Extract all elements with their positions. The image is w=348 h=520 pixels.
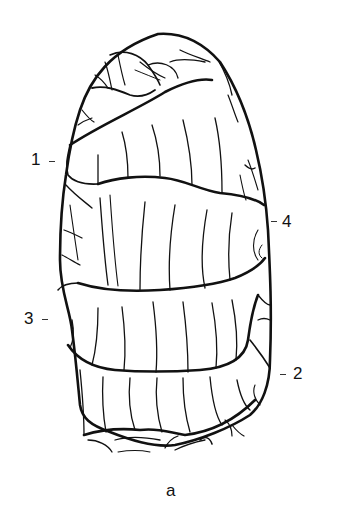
core-outline xyxy=(60,34,271,446)
flake-2-bottom-edge xyxy=(84,400,255,435)
leader-3 xyxy=(42,319,48,320)
label-3: 3 xyxy=(24,310,33,327)
label-1: 1 xyxy=(31,151,40,168)
label-2: 2 xyxy=(293,365,302,382)
flake-1-bottom-edge xyxy=(98,177,264,205)
leader-4 xyxy=(271,221,277,222)
leader-2 xyxy=(280,374,286,375)
flake-1-top-edge xyxy=(70,80,212,146)
core-drawing xyxy=(0,0,348,520)
label-4: 4 xyxy=(282,213,291,230)
figure-caption: a xyxy=(166,482,175,499)
leader-1 xyxy=(49,161,55,162)
